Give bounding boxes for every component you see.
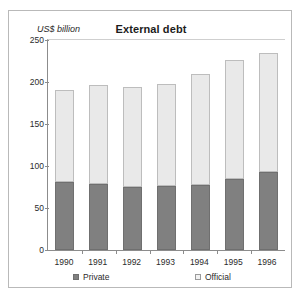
bar-1994 <box>191 74 210 250</box>
y-axis-tick-mark <box>45 124 49 125</box>
y-axis-tick-label: 150 <box>14 120 44 129</box>
chart-frame: External debt US$ billion 05010015020025… <box>8 10 292 288</box>
bar-segment-official <box>89 85 108 183</box>
legend-label-private: Private <box>83 272 109 282</box>
bar-segment-private <box>123 187 142 250</box>
bar-segment-private <box>157 186 176 250</box>
bar-segment-official <box>225 60 244 178</box>
y-axis-tick-mark <box>45 250 49 251</box>
bar-1996 <box>259 53 278 250</box>
bar-segment-private <box>89 184 108 250</box>
bar-segment-private <box>191 185 210 250</box>
x-axis-tick-mark <box>183 250 184 254</box>
bar-segment-official <box>259 53 278 172</box>
bar-segment-private <box>259 172 278 250</box>
bar-1993 <box>157 84 176 250</box>
legend-item-official: Official <box>195 272 231 282</box>
x-axis-tick-mark <box>116 250 117 254</box>
y-axis-tick-mark <box>45 82 49 83</box>
bar-1990 <box>55 90 74 250</box>
y-axis-tick-label: 0 <box>14 246 44 255</box>
bar-segment-private <box>55 182 74 250</box>
legend-swatch-official-icon <box>195 274 201 280</box>
bar-segment-official <box>157 84 176 186</box>
y-axis-tick-label: 200 <box>14 78 44 87</box>
x-axis-tick-mark <box>251 250 252 254</box>
legend-label-official: Official <box>205 272 231 282</box>
y-axis-tick-mark <box>45 40 49 41</box>
x-axis-tick-mark <box>150 250 151 254</box>
screenshot-root: External debt US$ billion 05010015020025… <box>0 0 305 300</box>
y-axis-tick-label: 100 <box>14 162 44 171</box>
x-axis-tick-mark <box>217 250 218 254</box>
plot-area: 050100150200250 <box>47 39 285 251</box>
bar-segment-official <box>191 74 210 186</box>
bar-1991 <box>89 85 108 250</box>
y-axis-tick-mark <box>45 208 49 209</box>
bar-1992 <box>123 87 142 250</box>
x-axis-tick-mark <box>82 250 83 254</box>
bar-segment-official <box>55 90 74 182</box>
y-axis-tick-mark <box>45 166 49 167</box>
y-axis-tick-label: 50 <box>14 204 44 213</box>
legend-swatch-private-icon <box>73 274 79 280</box>
legend-item-private: Private <box>73 272 109 282</box>
x-axis-tick-label: 1996 <box>245 257 289 267</box>
y-axis-tick-label: 250 <box>14 36 44 45</box>
bar-1995 <box>225 60 244 250</box>
bar-segment-private <box>225 179 244 250</box>
bar-segment-official <box>123 87 142 187</box>
y-axis-unit-label: US$ billion <box>37 24 80 34</box>
chart-legend: Private Official <box>47 272 285 286</box>
